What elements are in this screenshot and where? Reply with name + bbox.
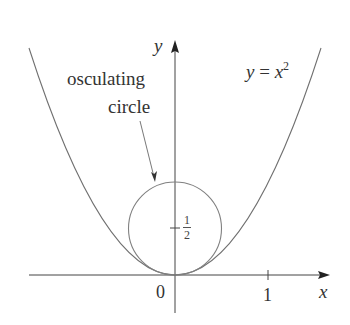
osculating-circle-label-line2: circle (108, 97, 150, 116)
fraction-denominator: 2 (184, 229, 190, 241)
y-axis-label: y (154, 36, 162, 55)
label-pointer-line (140, 121, 154, 177)
curve-equation-label: y = x2 (246, 60, 289, 81)
pointer-arrowhead-icon (151, 171, 157, 182)
equation-exponent: 2 (283, 59, 289, 73)
origin-label: 0 (156, 283, 165, 301)
equation-rhs: x (275, 61, 283, 82)
diagram-canvas (0, 0, 350, 325)
equation-equals: = (254, 61, 274, 82)
fraction-numerator: 1 (184, 214, 190, 226)
y-tick-label-half: 1 2 (183, 214, 191, 241)
x-axis-label: x (319, 282, 327, 301)
osculating-circle-label-line1: osculating (67, 69, 145, 88)
x-tick-label-1: 1 (263, 286, 272, 304)
